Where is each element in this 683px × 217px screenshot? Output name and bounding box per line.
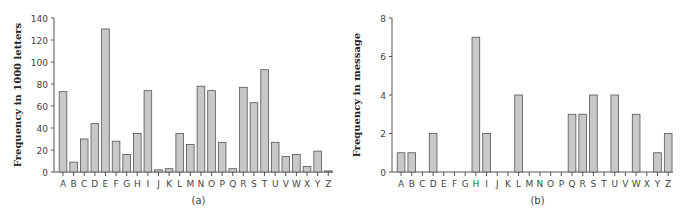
bar-h — [472, 37, 480, 172]
y-tick-label: 40 — [37, 124, 49, 134]
x-tick-label: K — [166, 179, 173, 189]
bar-u — [611, 95, 619, 172]
x-tick-label: X — [304, 179, 310, 189]
chart-b: 02468ABCDEFGHIJKLMNOPQRSTUVWXYZFrequency… — [340, 0, 683, 217]
x-tick-label: P — [559, 179, 565, 189]
bar-e — [102, 29, 110, 172]
x-tick-label: M — [186, 179, 194, 189]
bar-m — [186, 145, 194, 173]
y-tick-label: 6 — [380, 52, 386, 62]
y-axis-label: Frequency in 1000 letters — [12, 22, 23, 167]
y-tick-label: 2 — [380, 129, 386, 139]
x-tick-label: Z — [665, 179, 671, 189]
x-tick-label: S — [591, 179, 597, 189]
y-tick-label: 80 — [37, 80, 49, 90]
bar-i — [144, 91, 152, 172]
x-tick-label: J — [156, 179, 160, 189]
bar-p — [218, 142, 226, 172]
chart-caption: (b) — [530, 195, 544, 206]
bar-x — [303, 167, 311, 173]
bar-z — [324, 171, 332, 172]
bar-v — [282, 157, 290, 172]
x-tick-label: T — [600, 179, 607, 189]
x-tick-label: L — [177, 179, 182, 189]
x-tick-label: E — [441, 179, 447, 189]
y-axis-label: Frequency in message — [351, 33, 362, 157]
y-tick-label: 60 — [37, 102, 49, 112]
bar-n — [197, 86, 205, 172]
y-tick-label: 8 — [380, 14, 386, 24]
y-tick-label: 100 — [31, 58, 48, 68]
x-tick-label: H — [472, 179, 479, 189]
x-tick-label: J — [495, 179, 499, 189]
bar-d — [91, 124, 99, 172]
bar-a — [59, 92, 67, 172]
x-tick-label: C — [81, 179, 87, 189]
y-tick-label: 20 — [37, 146, 49, 156]
x-tick-label: Y — [654, 179, 661, 189]
bar-c — [80, 139, 88, 172]
x-tick-label: B — [71, 179, 77, 189]
bar-y — [314, 151, 322, 172]
x-tick-label: P — [219, 179, 225, 189]
x-tick-label: M — [525, 179, 533, 189]
y-tick-label: 0 — [42, 168, 48, 178]
x-tick-label: V — [283, 179, 290, 189]
x-tick-label: G — [123, 179, 130, 189]
bar-k — [165, 169, 173, 172]
bar-s — [590, 95, 598, 172]
bar-f — [112, 141, 120, 172]
x-tick-label: C — [419, 179, 425, 189]
x-tick-label: I — [485, 179, 488, 189]
x-tick-label: D — [430, 179, 437, 189]
x-tick-label: G — [462, 179, 469, 189]
bar-w — [632, 114, 640, 172]
bar-b — [70, 162, 78, 172]
chart-a-plot: 020406080100120140ABCDEFGHIJKLMNOPQRSTUV… — [0, 0, 340, 217]
x-tick-label: K — [505, 179, 512, 189]
bar-r — [579, 114, 587, 172]
bar-a — [397, 153, 405, 172]
x-tick-label: N — [198, 179, 205, 189]
bar-y — [654, 153, 662, 172]
x-tick-label: X — [644, 179, 650, 189]
x-tick-label: W — [292, 179, 301, 189]
x-tick-label: E — [103, 179, 109, 189]
x-tick-label: B — [409, 179, 415, 189]
bar-l — [515, 95, 523, 172]
bar-o — [208, 91, 216, 172]
x-tick-label: H — [134, 179, 141, 189]
x-tick-label: N — [537, 179, 544, 189]
y-tick-label: 4 — [380, 91, 386, 101]
chart-b-plot: 02468ABCDEFGHIJKLMNOPQRSTUVWXYZFrequency… — [340, 0, 683, 217]
x-tick-label: I — [147, 179, 150, 189]
bar-w — [293, 154, 301, 172]
x-tick-label: A — [60, 179, 67, 189]
y-tick-label: 0 — [380, 168, 386, 178]
x-tick-label: F — [113, 179, 118, 189]
bar-z — [664, 134, 672, 173]
x-tick-label: O — [547, 179, 554, 189]
x-tick-label: W — [632, 179, 641, 189]
bar-b — [408, 153, 416, 172]
x-tick-label: V — [622, 179, 629, 189]
y-tick-label: 120 — [31, 36, 48, 46]
x-tick-label: D — [91, 179, 98, 189]
chart-a: 020406080100120140ABCDEFGHIJKLMNOPQRSTUV… — [0, 0, 340, 217]
bar-q — [568, 114, 576, 172]
x-tick-label: T — [261, 179, 268, 189]
bar-q — [229, 169, 237, 172]
x-tick-label: R — [240, 179, 246, 189]
x-tick-label: O — [208, 179, 215, 189]
bar-u — [271, 142, 279, 172]
x-tick-label: R — [580, 179, 586, 189]
bar-r — [240, 87, 248, 172]
x-tick-label: F — [452, 179, 457, 189]
bar-g — [123, 154, 131, 172]
bar-s — [250, 103, 258, 172]
x-tick-label: Q — [229, 179, 236, 189]
bar-h — [133, 134, 141, 173]
bar-j — [155, 170, 163, 172]
bar-l — [176, 134, 184, 173]
bar-i — [483, 134, 491, 173]
